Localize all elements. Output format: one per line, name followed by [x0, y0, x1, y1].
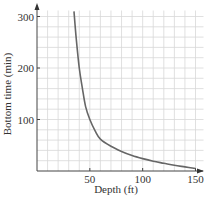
series	[74, 11, 196, 168]
chart: 50100150100200300 Depth (ft) Bottom time…	[0, 0, 207, 199]
y-axis-label: Bottom time (min)	[1, 52, 14, 135]
y-axis-arrow	[35, 3, 40, 10]
y-tick-label: 200	[18, 62, 35, 74]
y-tick-label: 100	[18, 114, 35, 126]
y-tick-label: 300	[18, 11, 35, 23]
series-line-bottom-time	[74, 11, 196, 168]
grid	[37, 11, 204, 172]
x-axis-label: Depth (ft)	[94, 183, 138, 196]
x-tick-label: 150	[187, 173, 204, 185]
